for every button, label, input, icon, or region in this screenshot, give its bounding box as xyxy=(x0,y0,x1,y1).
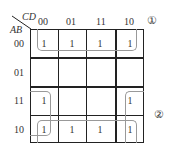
group-marker-1: ① xyxy=(147,14,157,27)
col-label: 10 xyxy=(124,17,134,27)
var-left-label: AB xyxy=(10,25,22,35)
row-label: 00 xyxy=(14,39,24,49)
var-top-label: CD xyxy=(22,12,36,22)
group-loop-1 xyxy=(37,29,137,51)
col-label: 01 xyxy=(66,17,76,27)
row-label: 10 xyxy=(14,125,24,135)
col-label: 11 xyxy=(96,17,106,27)
row-label: 11 xyxy=(14,96,24,106)
group-loop-3 xyxy=(37,120,137,143)
col-label: 00 xyxy=(38,17,48,27)
group-marker-2: ② xyxy=(154,108,164,121)
grid-line xyxy=(30,57,144,59)
row-label: 01 xyxy=(14,68,24,78)
